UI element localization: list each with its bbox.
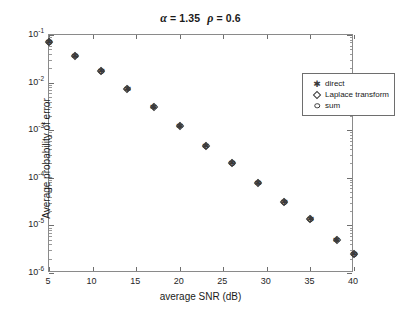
y-minor-tick-right <box>350 132 353 133</box>
y-minor-tick-right <box>350 54 353 55</box>
x-tick-top <box>267 35 268 39</box>
y-minor-tick-right <box>350 149 353 150</box>
y-minor-tick-right <box>350 155 353 156</box>
y-minor-tick-right <box>350 163 353 164</box>
y-tick-right <box>347 225 352 226</box>
y-tick-label: 10-1 <box>28 29 44 39</box>
y-minor-tick-right <box>350 138 353 139</box>
x-tick-top <box>354 35 355 39</box>
legend-label: sum <box>325 101 340 110</box>
y-minor-tick-right <box>350 60 353 61</box>
x-tick-top <box>93 35 94 39</box>
y-minor-tick-right <box>350 182 353 183</box>
x-axis-label: average SNR (dB) <box>48 291 353 302</box>
x-tick-top <box>310 35 311 39</box>
y-minor-tick-right <box>350 46 353 47</box>
legend-item-laplace-transform: Laplace transform <box>303 89 394 100</box>
x-tick <box>136 267 137 271</box>
x-tick-label: 5 <box>45 276 50 286</box>
y-tick-right <box>347 273 352 274</box>
y-minor-tick-right <box>350 228 353 229</box>
y-minor-tick-right <box>350 141 353 142</box>
y-minor-tick-right <box>350 203 353 204</box>
y-minor-tick-right <box>350 244 353 245</box>
y-tick <box>49 35 54 36</box>
x-tick <box>180 267 181 271</box>
x-tick <box>354 267 355 271</box>
y-minor-tick-right <box>350 236 353 237</box>
y-minor-tick-right <box>350 230 353 231</box>
y-minor-tick-right <box>350 145 353 146</box>
rho-value: = 0.6 <box>213 12 240 24</box>
legend-box: ✱ direct Laplace transform sum <box>302 73 395 116</box>
y-axis-label: Average probability of error <box>41 40 52 278</box>
y-minor-tick-right <box>350 40 353 41</box>
y-minor-tick-right <box>350 192 353 193</box>
circle-icon <box>309 100 325 111</box>
x-tick <box>223 267 224 271</box>
star-icon: ✱ <box>309 78 325 89</box>
y-tick-right <box>347 130 352 131</box>
x-tick-top <box>136 35 137 39</box>
y-minor-tick-right <box>350 233 353 234</box>
y-minor-tick-right <box>350 185 353 186</box>
x-tick-label: 25 <box>217 276 227 286</box>
diamond-icon <box>309 89 325 100</box>
y-minor-tick-right <box>350 197 353 198</box>
y-minor-tick-right <box>350 240 353 241</box>
x-tick <box>310 267 311 271</box>
y-minor-tick-right <box>350 211 353 212</box>
plot-area: ✱✱✱✱✱✱✱✱✱✱✱✱✱ ✱ direct Laplace transform… <box>48 34 353 272</box>
x-tick-top <box>180 35 181 39</box>
alpha-value: = 1.35 <box>167 12 200 24</box>
x-tick-label: 10 <box>87 276 97 286</box>
x-tick-top <box>223 35 224 39</box>
legend-item-direct: ✱ direct <box>303 78 394 89</box>
legend-label: Laplace transform <box>325 90 389 99</box>
y-minor-tick-right <box>350 42 353 43</box>
y-minor-tick-right <box>350 188 353 189</box>
y-minor-tick-right <box>350 180 353 181</box>
y-tick-right <box>347 35 352 36</box>
y-minor-tick-right <box>350 116 353 117</box>
x-tick-label: 40 <box>348 276 358 286</box>
x-tick-label: 20 <box>174 276 184 286</box>
x-tick <box>267 267 268 271</box>
y-minor-tick-right <box>350 135 353 136</box>
x-tick-label: 30 <box>261 276 271 286</box>
y-minor-tick-right <box>350 68 353 69</box>
y-tick-right <box>347 178 352 179</box>
x-tick <box>93 267 94 271</box>
x-tick-label: 15 <box>130 276 140 286</box>
chart-title: α = 1.35ρ = 0.6 <box>48 11 353 26</box>
y-minor-tick-right <box>350 37 353 38</box>
y-minor-tick-right <box>350 49 353 50</box>
x-tick-label: 35 <box>304 276 314 286</box>
legend-item-sum: sum <box>303 100 394 111</box>
legend-label: direct <box>325 79 345 88</box>
